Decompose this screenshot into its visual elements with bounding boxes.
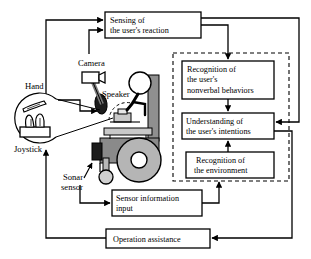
label-speaker: Speaker: [102, 89, 130, 99]
box-recognition-environment-line2: the environment: [194, 166, 248, 175]
box-understanding-intentions-line2: the user's intentions: [186, 127, 251, 136]
caster-wheel: [99, 170, 113, 184]
sonar-leader-line: [84, 163, 92, 178]
diagram-canvas: Sensing of the user's reaction Recogniti…: [0, 0, 311, 259]
connector-operation-to-joystick: [46, 150, 106, 238]
box-recognition-environment[interactable]: Recognition of the environment: [186, 152, 274, 178]
box-recognition-nonverbal-line3: nonverbal behaviors: [187, 86, 254, 95]
camera-lens: [99, 72, 105, 83]
joystick-base: [20, 127, 50, 137]
label-joystick: Joystick: [14, 144, 43, 154]
box-understanding-intentions-line1: Understanding of: [186, 117, 243, 126]
connector-hand-to-speaker: [58, 100, 97, 111]
label-camera: Camera: [78, 58, 105, 68]
sonar-sensor-icon: [92, 143, 102, 160]
box-sensor-information-input-line2: input: [116, 204, 134, 213]
box-sensing[interactable]: Sensing of the user's reaction: [105, 12, 201, 38]
connector-sensing-to-nonverbal: [201, 25, 228, 59]
system-diagram: Sensing of the user's reaction Recogniti…: [0, 0, 311, 259]
box-recognition-nonverbal-line2: the user's: [187, 75, 217, 84]
box-recognition-environment-line1: Recognition of: [196, 156, 245, 165]
box-understanding-intentions[interactable]: Understanding of the user's intentions: [182, 113, 274, 139]
user-head: [129, 72, 151, 94]
label-sonar-sensor-line2: sensor: [61, 182, 83, 192]
box-recognition-nonverbal-line1: Recognition of: [187, 65, 236, 74]
camera-icon: [82, 72, 99, 83]
user-arm: [133, 102, 145, 115]
connector-sensorinput-to-environment: [202, 182, 219, 203]
chair-seat: [104, 128, 152, 135]
wheel-hub: [131, 152, 147, 168]
box-sensing-line1: Sensing of: [110, 16, 145, 25]
label-sonar-sensor-line1: Sonar: [63, 172, 83, 182]
box-recognition-nonverbal[interactable]: Recognition of the user's nonverbal beha…: [182, 61, 274, 99]
connector-sonar-to-sensorinput: [80, 185, 110, 203]
label-hand: Hand: [25, 81, 44, 91]
box-sensing-line2: the user's reaction: [110, 26, 169, 35]
box-sensor-information-input[interactable]: Sensor information input: [112, 190, 202, 216]
box-sensor-information-input-line1: Sensor information: [116, 194, 179, 203]
connector-camera-to-sensing: [89, 30, 103, 54]
box-operation-assistance-label: Operation assistance: [113, 235, 181, 244]
box-operation-assistance[interactable]: Operation assistance: [106, 229, 210, 248]
connector-understanding-to-operation: [212, 131, 292, 238]
